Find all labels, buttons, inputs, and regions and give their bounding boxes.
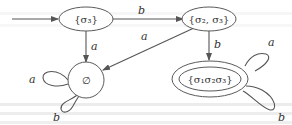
edge-label: a — [29, 73, 36, 86]
edge-s3-empty-a: a — [86, 31, 98, 62]
edge-empty-self-b: b — [53, 95, 79, 124]
edge-s123-self-a: a — [245, 36, 275, 71]
automaton-diagram: b a a b a b a — [0, 0, 292, 125]
edge-label: a — [268, 36, 275, 49]
edge-label: b — [214, 38, 221, 51]
edge-label: b — [138, 4, 145, 17]
edge-label: b — [278, 111, 285, 124]
state-label: ∅ — [82, 75, 91, 86]
edge-label: a — [141, 30, 148, 43]
state-label: {σ₁σ₂σ₃} — [187, 74, 232, 85]
edge-label: b — [53, 111, 60, 124]
state-empty: ∅ — [68, 62, 104, 98]
state-label: {σ₂, σ₃} — [189, 14, 230, 25]
state-s3: {σ₃} — [59, 7, 113, 31]
edge-s23-empty-a: a — [103, 28, 194, 70]
edge-empty-self-a: a — [29, 72, 68, 87]
diagram-svg: b a a b a b a — [0, 0, 292, 125]
edge-s3-s23-b: b — [112, 4, 183, 19]
edge-s123-self-b: b — [243, 86, 285, 124]
state-s23: {σ₂, σ₃} — [182, 7, 236, 31]
edge-label: a — [91, 40, 98, 53]
edge-s23-s123-b: b — [209, 31, 221, 60]
state-s123-accepting: {σ₁σ₂σ₃} — [172, 61, 248, 97]
state-label: {σ₃} — [74, 14, 98, 25]
